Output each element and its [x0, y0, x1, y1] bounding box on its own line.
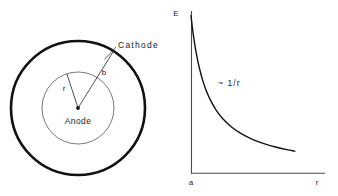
- radius-line-b: [78, 51, 114, 108]
- field-decay-curve: [191, 16, 295, 152]
- x-axis-origin-tick-label: a: [189, 178, 194, 187]
- y-axis-label: E: [173, 9, 178, 18]
- field-magnitude-chart: E r a ~ 1/r: [173, 9, 325, 187]
- radius-line-r: [67, 74, 78, 108]
- anode-label: Anode: [65, 116, 92, 126]
- cross-section-diagram: r b Cathode Anode: [11, 40, 159, 175]
- x-axis-label: r: [316, 178, 319, 187]
- cathode-label: Cathode: [118, 40, 159, 50]
- radius-label-b: b: [102, 68, 107, 77]
- figure-root: r b Cathode Anode E r a ~ 1/r: [0, 0, 338, 196]
- figure-canvas: r b Cathode Anode E r a ~ 1/r: [0, 0, 338, 196]
- curve-annotation-label: ~ 1/r: [218, 78, 241, 88]
- center-dot: [76, 106, 80, 110]
- radius-label-r: r: [63, 84, 66, 93]
